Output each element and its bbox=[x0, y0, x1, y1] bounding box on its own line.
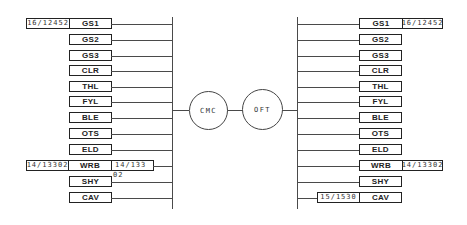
left-gs2-link bbox=[111, 40, 172, 41]
bus-diagram: CMC OFT 16/12452 GS1 GS2 GS3 CLR THL FYL… bbox=[0, 0, 467, 225]
right-clr-link bbox=[297, 71, 359, 72]
right-station-fyl[interactable]: FYL bbox=[359, 96, 402, 107]
right-station-clr[interactable]: CLR bbox=[359, 65, 402, 76]
right-station-gs2[interactable]: GS2 bbox=[359, 34, 402, 45]
right-station-ble[interactable]: BLE bbox=[359, 112, 402, 123]
right-gs1-tag: 16/12452 bbox=[402, 18, 443, 29]
oft-node-label: OFT bbox=[254, 106, 271, 114]
right-wrb-tag: 14/13302 bbox=[402, 160, 443, 171]
oft-node[interactable]: OFT bbox=[242, 89, 283, 130]
right-wrb-link bbox=[297, 166, 359, 167]
right-station-cav[interactable]: CAV bbox=[359, 192, 402, 203]
left-wrb-tag-left: 14/13302 bbox=[26, 160, 69, 171]
cmc-node[interactable]: CMC bbox=[189, 91, 228, 130]
right-station-wrb[interactable]: WRB bbox=[359, 160, 403, 171]
left-bus-line bbox=[172, 17, 173, 209]
right-cav-link bbox=[297, 198, 317, 199]
left-station-gs2[interactable]: GS2 bbox=[69, 34, 112, 45]
left-shy-link bbox=[111, 182, 172, 183]
left-station-eld[interactable]: ELD bbox=[69, 144, 112, 155]
right-station-gs3[interactable]: GS3 bbox=[359, 50, 402, 61]
left-ots-link bbox=[111, 134, 172, 135]
right-fyl-link bbox=[297, 102, 359, 103]
left-station-fyl[interactable]: FYL bbox=[69, 96, 112, 107]
left-ble-link bbox=[111, 118, 172, 119]
right-cav-tag: 15/1530 bbox=[317, 192, 360, 203]
right-station-eld[interactable]: ELD bbox=[359, 144, 402, 155]
left-gs1-tag: 16/12452 bbox=[26, 18, 70, 29]
left-station-cav[interactable]: CAV bbox=[69, 192, 112, 203]
right-eld-link bbox=[297, 150, 359, 151]
right-thl-link bbox=[297, 87, 359, 88]
left-thl-link bbox=[111, 87, 172, 88]
left-station-shy[interactable]: SHY bbox=[69, 176, 112, 187]
right-station-ots[interactable]: OTS bbox=[359, 128, 402, 139]
left-station-ble[interactable]: BLE bbox=[69, 112, 112, 123]
left-eld-link bbox=[111, 150, 172, 151]
right-station-shy[interactable]: SHY bbox=[359, 176, 402, 187]
right-gs1-link bbox=[297, 24, 359, 25]
left-gs3-link bbox=[111, 56, 172, 57]
left-bus-to-cmc-link bbox=[172, 110, 189, 111]
left-station-clr[interactable]: CLR bbox=[69, 65, 112, 76]
left-wrb-tag-right: 14/133 bbox=[111, 160, 154, 171]
right-gs3-link bbox=[297, 56, 359, 57]
left-station-thl[interactable]: THL bbox=[69, 81, 112, 92]
right-ble-link bbox=[297, 118, 359, 119]
left-station-gs3[interactable]: GS3 bbox=[69, 50, 112, 61]
oft-to-right-bus-link bbox=[282, 110, 297, 111]
right-ots-link bbox=[297, 134, 359, 135]
left-cav-link bbox=[111, 198, 172, 199]
left-gs1-link bbox=[111, 24, 172, 25]
right-station-thl[interactable]: THL bbox=[359, 81, 402, 92]
right-bus-line bbox=[297, 17, 298, 209]
right-shy-link bbox=[297, 182, 359, 183]
left-station-gs1[interactable]: GS1 bbox=[69, 18, 112, 29]
left-wrb-link bbox=[153, 166, 172, 167]
left-station-wrb[interactable]: WRB bbox=[68, 160, 112, 171]
left-fyl-link bbox=[111, 102, 172, 103]
cmc-node-label: CMC bbox=[200, 107, 217, 115]
right-gs2-link bbox=[297, 40, 359, 41]
left-clr-link bbox=[111, 71, 172, 72]
left-wrb-tag-overflow: 02 bbox=[113, 172, 123, 179]
right-station-gs1[interactable]: GS1 bbox=[359, 18, 403, 29]
cmc-to-oft-link bbox=[227, 110, 243, 111]
left-station-ots[interactable]: OTS bbox=[69, 128, 112, 139]
